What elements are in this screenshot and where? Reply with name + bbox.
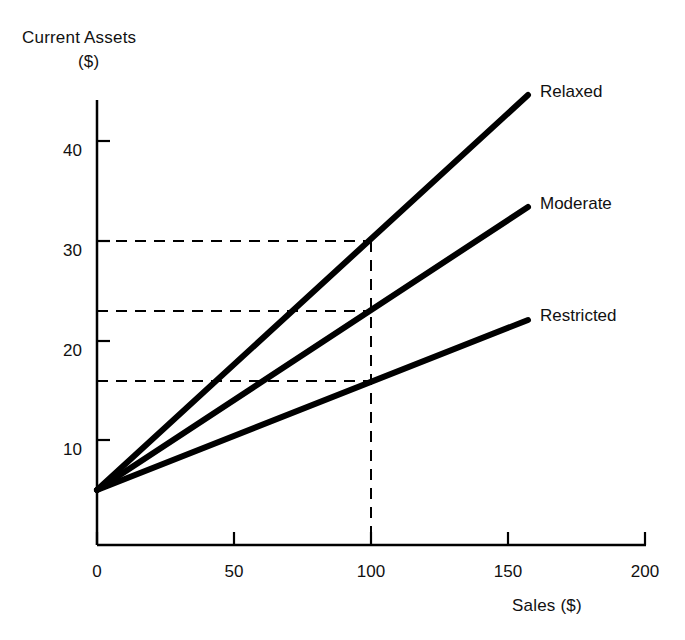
series-line-relaxed (97, 95, 528, 490)
chart-figure: Current Assets ($) Sales ($) 10 20 30 40… (0, 0, 685, 640)
y-tick-marks (97, 141, 110, 440)
reference-lines (97, 241, 371, 545)
plot-area (0, 0, 685, 640)
data-series (97, 95, 528, 490)
